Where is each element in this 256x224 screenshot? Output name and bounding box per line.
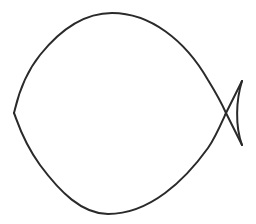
fish-drawing: [0, 0, 256, 224]
drawing-canvas: [0, 0, 256, 224]
fish-body-lower: [14, 113, 242, 214]
fish-body-upper: [14, 13, 242, 113]
fish-icon: [14, 13, 242, 214]
